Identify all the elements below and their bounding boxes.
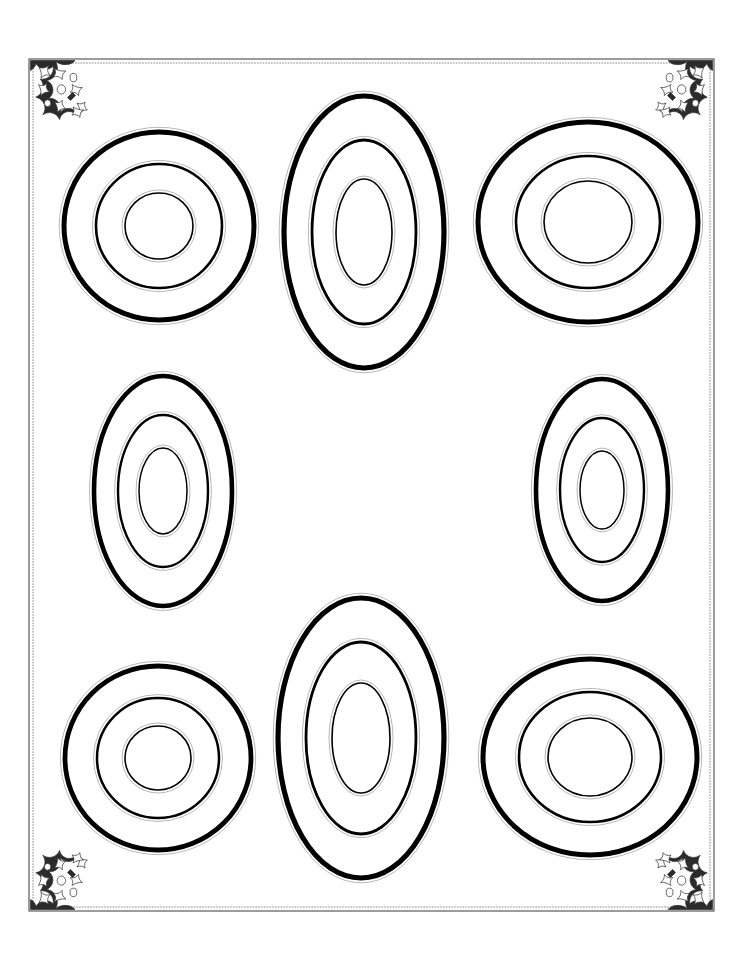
artboard: [0, 0, 739, 958]
worksheet-page: Concentric Ovals Practice Sheet: [0, 0, 739, 958]
